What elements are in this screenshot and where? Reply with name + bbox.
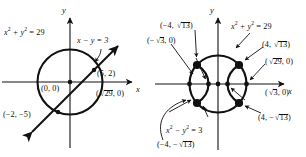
right-point-4-sqrt13-label: (4, √13): [262, 41, 290, 49]
line-label-pointer: [95, 49, 101, 62]
right-point-negsqrt3-label: (−√3, 0): [147, 37, 176, 45]
origin-dot: [216, 82, 221, 87]
left-y-axis-label: y: [62, 5, 66, 15]
right-point-sqrt3-label: (√3, 0): [265, 89, 289, 97]
right-point-sqrt29-label: (√29, 0): [265, 58, 293, 66]
right-point-neg4-negsqrt13-label: (−4, −√13): [157, 141, 195, 149]
left-origin-label: (0, 0): [41, 85, 59, 93]
left-graph-svg: [0, 0, 153, 157]
right-x-axis-label: x: [288, 86, 292, 96]
point-negsqrt29-0: [187, 82, 192, 87]
point-sqrt29-0: [244, 82, 249, 87]
left-circle-equation: x2 + y2 = 29: [4, 29, 45, 37]
right-point-neg4-sqrt13-label: (−4, √13): [160, 22, 193, 30]
right-point-4-negsqrt13-label: (4, −√13): [258, 114, 291, 122]
panel-circle-line: x2 + y2 = 29 x − y = 3 (0, 0) (5, 2) (√2…: [0, 0, 153, 157]
left-point-5-2-label: (5, 2): [97, 70, 115, 78]
figure-canvas: x2 + y2 = 29 x − y = 3 (0, 0) (5, 2) (√2…: [0, 0, 306, 157]
point-sqrt3-0: [225, 82, 230, 87]
point-negsqrt3-0: [206, 82, 211, 87]
point-5-2: [92, 68, 96, 72]
point-neg2-neg5: [56, 110, 60, 114]
right-hyperbola-equation: x2 − y2 = 3: [166, 127, 202, 135]
panel-circle-hyperbola: (−4, √13) (−√3, 0) x2 + y2 = 29 (4, √13)…: [153, 0, 306, 157]
left-line-equation: x − y = 3: [77, 37, 109, 45]
right-circle-equation: x2 + y2 = 29: [231, 23, 272, 31]
label-pointers: [160, 30, 265, 140]
left-x-axis-label: x: [136, 84, 140, 94]
right-y-axis-label: y: [210, 5, 214, 15]
left-point-neg2-neg5-label: (−2, −5): [3, 111, 31, 119]
origin-dot: [68, 80, 73, 85]
left-point-sqrt29-label: (√29, 0): [96, 90, 124, 98]
